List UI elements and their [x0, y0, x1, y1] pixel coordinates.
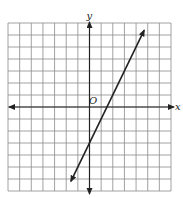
x-axis-label: x	[175, 101, 181, 112]
axes	[9, 22, 174, 194]
origin-label: O	[89, 95, 97, 106]
y-axis-label: y	[86, 10, 93, 21]
coordinate-plane: x y O	[0, 0, 183, 198]
plotted-line	[71, 30, 144, 181]
